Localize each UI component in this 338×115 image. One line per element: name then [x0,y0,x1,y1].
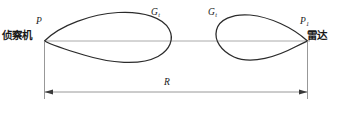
right-gain-lobe [216,15,308,60]
range-arrowhead-right [299,89,308,94]
range-arrowhead-left [45,89,54,94]
label-radar: 雷达 [307,30,327,41]
left-gain-lobe [45,12,172,62]
antenna-gain-diagram: P 侦察机 P1 雷达 Gt Gt R [0,0,338,115]
label-gain-right: Gt [208,8,217,18]
diagram-canvas [0,0,338,115]
label-gain-left: Gt [151,8,160,18]
label-reconnaissance-aircraft: 侦察机 [2,30,31,41]
label-range: R [164,78,170,88]
label-p-left: P [36,17,42,27]
label-p-right: P1 [300,17,309,27]
